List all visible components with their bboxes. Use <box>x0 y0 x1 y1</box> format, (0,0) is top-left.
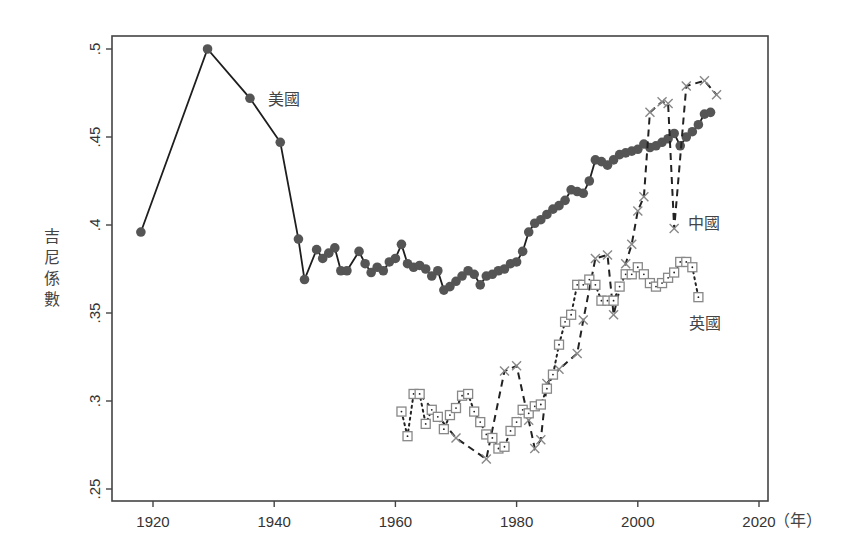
data-point <box>452 433 461 442</box>
x-tick-label: 1920 <box>136 513 169 530</box>
series-label: 中國 <box>688 214 720 233</box>
data-point <box>524 227 534 237</box>
data-point <box>712 90 721 99</box>
series-line <box>141 49 711 290</box>
y-tick-label: .5 <box>86 43 103 56</box>
data-point <box>300 275 310 285</box>
y-axis: .25.3.35.4.45.5 <box>86 43 112 500</box>
data-point <box>518 247 528 257</box>
y-axis-label-char: 數 <box>44 290 60 309</box>
x-tick-label: 1940 <box>258 513 291 530</box>
data-point <box>469 269 479 279</box>
data-point <box>560 196 570 206</box>
data-point <box>433 266 443 276</box>
y-tick-label: .45 <box>86 127 103 148</box>
series-label: 英國 <box>689 314 721 333</box>
y-axis-label-char: 吉 <box>44 227 60 246</box>
data-point <box>645 108 654 117</box>
series-label: 美國 <box>268 90 300 109</box>
x-tick-label: 1960 <box>379 513 412 530</box>
y-tick-label: .3 <box>86 395 103 408</box>
data-point <box>203 44 213 54</box>
gini-chart: .25.3.35.4.45.5 192019401960198020002020… <box>0 0 864 558</box>
x-axis: 192019401960198020002020 <box>136 501 775 530</box>
data-point <box>658 97 667 106</box>
y-tick-label: .25 <box>86 479 103 500</box>
data-point <box>136 227 146 237</box>
series-usa <box>136 44 715 295</box>
y-axis-label-char: 係 <box>44 269 60 288</box>
data-point <box>354 247 364 257</box>
data-point <box>360 259 370 269</box>
data-point <box>706 108 716 118</box>
x-tick-label: 1980 <box>500 513 533 530</box>
data-point <box>669 129 679 139</box>
data-point <box>330 243 340 253</box>
data-point <box>294 234 304 244</box>
data-point <box>573 349 582 358</box>
y-axis-label: 吉尼係數 <box>44 227 60 309</box>
data-point <box>397 240 407 250</box>
data-point <box>391 254 401 264</box>
series-layer <box>136 44 721 463</box>
data-point <box>475 280 485 290</box>
x-tick-label: 2020 <box>742 513 775 530</box>
y-tick-label: .4 <box>86 219 103 232</box>
data-point <box>312 245 322 255</box>
data-point <box>275 137 285 147</box>
data-point <box>585 176 595 186</box>
data-point <box>512 361 521 370</box>
x-tick-label: 2000 <box>621 513 654 530</box>
y-tick-label: .35 <box>86 303 103 324</box>
annotation-layer: 美國中國英國 <box>268 90 721 333</box>
y-axis-label-char: 尼 <box>44 248 60 267</box>
data-point <box>512 257 522 267</box>
data-point <box>342 266 352 276</box>
data-point <box>536 435 545 444</box>
data-point <box>378 266 388 276</box>
data-point <box>578 189 588 199</box>
data-point <box>694 120 704 130</box>
x-axis-label: （年） <box>774 511 822 530</box>
data-point <box>245 93 255 103</box>
